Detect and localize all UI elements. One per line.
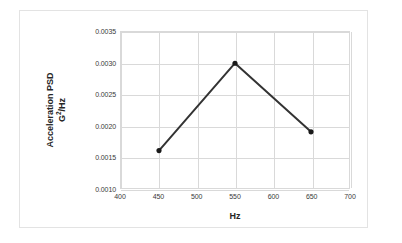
series-line [159, 63, 311, 150]
y-axis-unit-superscript: 2 [55, 111, 62, 115]
data-point-marker [156, 148, 161, 153]
y-axis-unit-base: G [57, 115, 67, 122]
x-axis-tick-label: 400 [114, 193, 125, 200]
plot-area [120, 31, 350, 189]
x-axis-tick-label: 550 [229, 193, 240, 200]
y-axis-unit-tail: /Hz [57, 98, 67, 112]
y-axis-tick-labels: 0.00100.00150.00200.00250.00300.0035 [72, 31, 116, 189]
x-axis-tick-label: 700 [344, 193, 355, 200]
y-axis-tick-label: 0.0025 [95, 91, 116, 98]
chart-frame: Acceleration PSD G2/Hz 0.00100.00150.002… [19, 10, 368, 228]
y-axis-tick-label: 0.0035 [95, 28, 116, 35]
x-axis-tick-label: 450 [153, 193, 164, 200]
y-axis-title: Acceleration PSD G2/Hz [42, 31, 70, 189]
data-point-marker [308, 129, 313, 134]
y-axis-title-line-1: Acceleration PSD [45, 72, 55, 147]
y-axis-tick-label: 0.0015 [95, 154, 116, 161]
gridline-vertical [351, 32, 352, 188]
y-axis-tick-label: 0.0030 [95, 59, 116, 66]
x-axis-tick-label: 500 [191, 193, 202, 200]
chart-figure: Acceleration PSD G2/Hz 0.00100.00150.002… [0, 0, 402, 243]
data-point-marker [232, 61, 237, 66]
gridline-horizontal [121, 190, 349, 191]
x-axis-tick-label: 650 [306, 193, 317, 200]
series-line-acceleration-psd [121, 32, 349, 188]
y-axis-title-line-2: G2/Hz [55, 98, 67, 122]
x-axis-tick-labels: 400450500550600650700 [120, 193, 350, 207]
y-axis-tick-label: 0.0020 [95, 122, 116, 129]
y-axis-tick-label: 0.0010 [95, 186, 116, 193]
x-axis-tick-label: 600 [268, 193, 279, 200]
x-axis-title: Hz [120, 211, 350, 221]
